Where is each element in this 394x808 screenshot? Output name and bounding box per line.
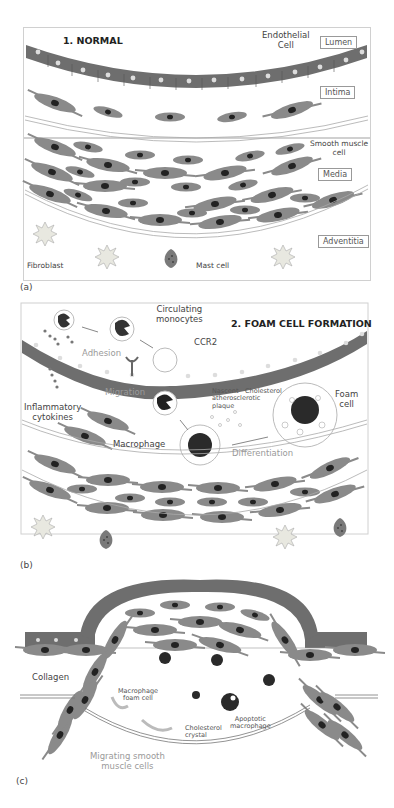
- fibroblast-label: Fibroblast: [27, 262, 63, 271]
- smooth-muscle-label: Smooth muscle cell: [310, 140, 368, 157]
- ccr2-label: CCR2: [194, 338, 217, 348]
- macrophage-label: Macrophage: [113, 440, 165, 450]
- collagen-label: Collagen: [32, 673, 69, 683]
- circulating-monocytes-label: Circulating monocytes: [156, 305, 203, 325]
- migrating-smc-label: Migrating smooth muscle cells: [90, 752, 165, 772]
- endothelial-cell-label: Endothelial Cell: [262, 31, 310, 51]
- cholesterol-crystal-label: Cholesterol crystal: [185, 725, 222, 740]
- mast-cell-label: Mast cell: [196, 262, 229, 271]
- migration-label: Migration: [105, 388, 145, 398]
- inflammatory-cytokines-label: Inflammatory cytokines: [24, 403, 81, 423]
- media-label: Media: [318, 168, 352, 181]
- foam-cell-label: Foam cell: [335, 390, 358, 410]
- differentiation-label: Differentiation: [232, 449, 293, 459]
- panel-b-tag: (b): [20, 560, 33, 570]
- apoptotic-macrophage-label: Apoptotic macrophage: [230, 716, 271, 731]
- panel-b-title: 2. FOAM CELL FORMATION: [231, 318, 372, 329]
- macrophage-foam-cell-label: Macrophage foam cell: [118, 688, 158, 703]
- panel-c-tag: (c): [16, 776, 28, 786]
- panel-a-title: 1. NORMAL: [63, 35, 123, 46]
- lumen-label: Lumen: [320, 36, 357, 49]
- intima-label: Intima: [320, 86, 355, 99]
- adventitia-label: Adventitia: [318, 235, 369, 248]
- adhesion-label: Adhesion: [82, 349, 121, 359]
- panel-a-tag: (a): [20, 282, 33, 292]
- cholesterol-label: Cholesterol: [245, 388, 282, 395]
- endothelium-a: [26, 45, 367, 88]
